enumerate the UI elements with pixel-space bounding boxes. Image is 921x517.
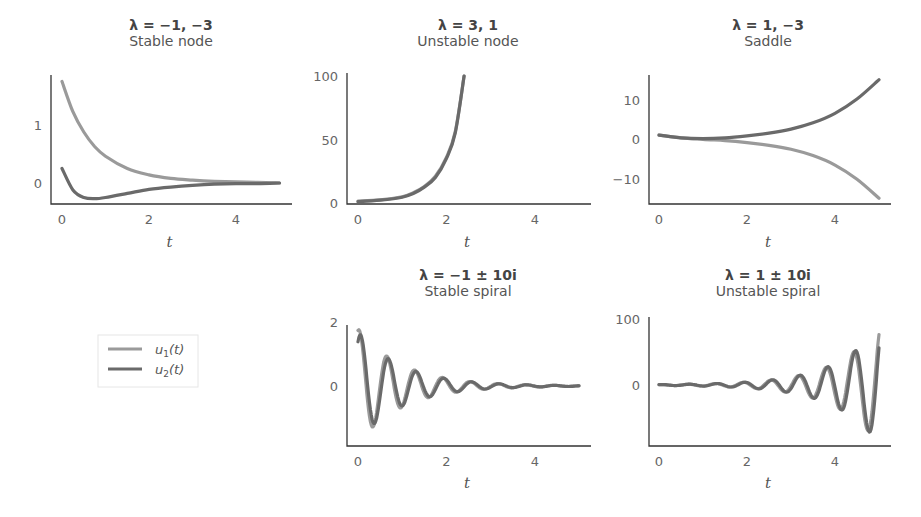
x-tick-label: 2 xyxy=(145,212,153,227)
x-tick-label: 0 xyxy=(655,212,663,227)
x-axis-label: t xyxy=(464,474,471,492)
y-tick-label: 100 xyxy=(615,312,640,327)
legend-label-1: u1(t) xyxy=(155,342,184,359)
y-tick-label: 50 xyxy=(321,133,338,148)
panel-title-type: Stable node xyxy=(129,33,213,49)
x-axis-label: t xyxy=(464,233,471,251)
series-u1-line xyxy=(659,135,879,198)
panel-unstable-spiral: λ = 1 ± 10iUnstable spiral0240100t xyxy=(615,267,891,492)
y-tick-label: 10 xyxy=(623,93,640,108)
x-tick-label: 0 xyxy=(58,212,66,227)
x-tick-label: 2 xyxy=(743,212,751,227)
x-tick-label: 4 xyxy=(531,454,539,469)
x-tick-label: 0 xyxy=(655,454,663,469)
series-u1-line xyxy=(62,82,280,184)
x-tick-label: 0 xyxy=(354,454,362,469)
panel-title-eigenvalues: λ = 3, 1 xyxy=(438,17,498,33)
panel-title-eigenvalues: λ = 1, −3 xyxy=(732,17,804,33)
legend-label-2: u2(t) xyxy=(155,362,184,379)
x-axis-label: t xyxy=(765,474,772,492)
x-tick-label: 2 xyxy=(442,212,450,227)
x-tick-label: 4 xyxy=(831,212,839,227)
legend: u1(t)u2(t) xyxy=(98,335,198,387)
x-tick-label: 2 xyxy=(743,454,751,469)
x-axis-label: t xyxy=(166,233,173,251)
panel-title-eigenvalues: λ = −1 ± 10i xyxy=(419,267,517,283)
y-tick-label: 1 xyxy=(34,118,42,133)
figure-canvas: λ = −1, −3Stable node02401tλ = 3, 1Unsta… xyxy=(0,0,921,517)
x-tick-label: 0 xyxy=(354,212,362,227)
y-tick-label: 100 xyxy=(313,69,338,84)
x-tick-label: 4 xyxy=(831,454,839,469)
x-tick-label: 4 xyxy=(232,212,240,227)
series-u2-line xyxy=(358,76,464,202)
series-u1-line xyxy=(358,76,464,201)
panel-saddle: λ = 1, −3Saddle024−10010t xyxy=(613,17,891,251)
panel-title-type: Saddle xyxy=(744,33,792,49)
panel-title-type: Unstable node xyxy=(417,33,518,49)
panel-unstable-node: λ = 3, 1Unstable node024050100t xyxy=(313,17,591,251)
x-tick-label: 2 xyxy=(442,454,450,469)
series-u2-line xyxy=(659,80,879,139)
y-tick-label: 2 xyxy=(330,315,338,330)
series-u2-line xyxy=(62,169,280,199)
panel-stable-node: λ = −1, −3Stable node02401t xyxy=(34,17,292,251)
panel-stable-spiral: λ = −1 ± 10iStable spiral02402t xyxy=(330,267,591,492)
x-tick-label: 4 xyxy=(531,212,539,227)
panel-title-eigenvalues: λ = 1 ± 10i xyxy=(725,267,811,283)
y-tick-label: 0 xyxy=(632,132,640,147)
y-tick-label: 0 xyxy=(632,378,640,393)
axes-spine xyxy=(347,73,591,204)
y-tick-label: 0 xyxy=(330,379,338,394)
x-axis-label: t xyxy=(765,233,772,251)
y-tick-label: −10 xyxy=(613,172,640,187)
series-u2-line xyxy=(659,348,879,432)
y-tick-label: 0 xyxy=(330,196,338,211)
panel-title-eigenvalues: λ = −1, −3 xyxy=(129,17,212,33)
series-u1-line xyxy=(358,330,579,427)
panel-title-type: Unstable spiral xyxy=(716,283,821,299)
y-tick-label: 0 xyxy=(34,176,42,191)
panel-title-type: Stable spiral xyxy=(424,283,511,299)
